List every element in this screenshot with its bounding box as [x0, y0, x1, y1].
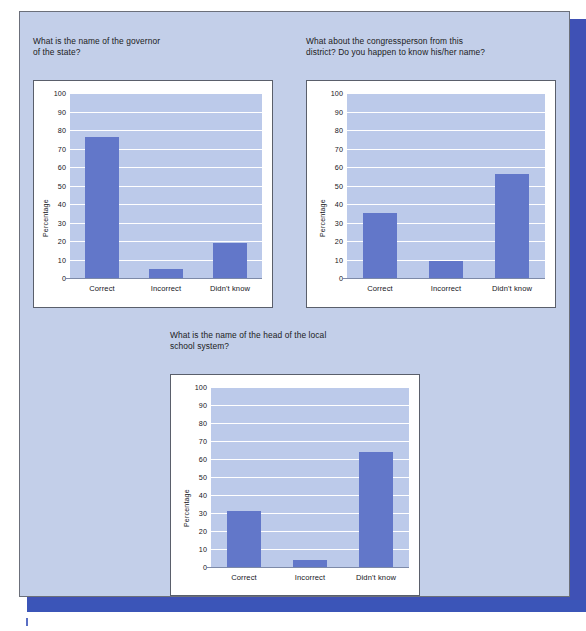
- x-axis-baseline: [207, 567, 409, 568]
- x-axis-baseline: [343, 278, 545, 279]
- chart-title-governor: What is the name of the governor of the …: [33, 36, 273, 58]
- bar-correct: [227, 511, 261, 567]
- y-tick-label: 70: [36, 145, 66, 154]
- y-tick-label: 40: [177, 491, 207, 500]
- bar-didn-t-know: [495, 174, 529, 278]
- gridline: [211, 387, 409, 388]
- y-tick-label: 90: [36, 108, 66, 117]
- y-tick-label: 60: [177, 455, 207, 464]
- y-tick-label: 50: [177, 473, 207, 482]
- y-tick-label: 0: [177, 563, 207, 572]
- x-tick-label: Didn't know: [336, 573, 416, 582]
- y-tick-label: 100: [36, 89, 66, 98]
- plot-area: [211, 387, 409, 567]
- y-tick-label: 80: [177, 419, 207, 428]
- gridline: [211, 441, 409, 442]
- bar-incorrect: [149, 269, 182, 278]
- x-axis-baseline: [66, 278, 262, 279]
- chart-title-congressperson: What about the congressperson from this …: [306, 36, 556, 58]
- gridline: [347, 93, 545, 94]
- gridline: [347, 130, 545, 131]
- y-tick-label: 30: [177, 509, 207, 518]
- y-tick-label: 60: [313, 163, 343, 172]
- bar-correct: [85, 137, 118, 278]
- y-tick-label: 10: [36, 256, 66, 265]
- y-tick-label: 0: [36, 274, 66, 283]
- bar-didn-t-know: [359, 452, 393, 567]
- x-tick-label: Didn't know: [472, 284, 552, 293]
- y-tick-label: 10: [313, 256, 343, 265]
- y-tick-label: 80: [36, 126, 66, 135]
- bar-incorrect: [293, 560, 327, 567]
- plot-area: [70, 93, 262, 278]
- bar-didn-t-know: [213, 243, 246, 278]
- gridline: [70, 130, 262, 131]
- chart-card-school-head: Percentage010203040506070809010031Correc…: [170, 374, 420, 596]
- y-tick-label: 0: [313, 274, 343, 283]
- gridline: [211, 423, 409, 424]
- y-tick-label: 90: [177, 401, 207, 410]
- plot-governor: Percentage010203040506070809010076Correc…: [34, 81, 272, 307]
- gridline: [211, 405, 409, 406]
- y-tick-label: 10: [177, 545, 207, 554]
- corner-tick-mark: [26, 618, 28, 626]
- y-tick-label: 70: [177, 437, 207, 446]
- y-tick-label: 30: [36, 219, 66, 228]
- chart-card-governor: Percentage010203040506070809010076Correc…: [33, 80, 273, 308]
- chart-card-congressperson: Percentage010203040506070809010035Correc…: [306, 80, 556, 308]
- plot-congressperson: Percentage010203040506070809010035Correc…: [307, 81, 555, 307]
- y-tick-label: 90: [313, 108, 343, 117]
- gridline: [347, 149, 545, 150]
- y-tick-label: 20: [36, 237, 66, 246]
- y-tick-label: 20: [177, 527, 207, 536]
- gridline: [347, 112, 545, 113]
- figure-page: What is the name of the governor of the …: [0, 0, 586, 631]
- y-tick-label: 20: [313, 237, 343, 246]
- gridline: [70, 93, 262, 94]
- y-tick-label: 60: [36, 163, 66, 172]
- x-tick-label: Didn't know: [190, 284, 270, 293]
- gridline: [347, 167, 545, 168]
- y-tick-label: 50: [313, 182, 343, 191]
- y-tick-label: 70: [313, 145, 343, 154]
- y-tick-label: 100: [313, 89, 343, 98]
- plot-school-head: Percentage010203040506070809010031Correc…: [171, 375, 419, 595]
- y-tick-label: 80: [313, 126, 343, 135]
- y-tick-label: 50: [36, 182, 66, 191]
- bar-correct: [363, 213, 397, 278]
- y-tick-label: 40: [313, 200, 343, 209]
- y-tick-label: 40: [36, 200, 66, 209]
- chart-title-school-head: What is the name of the head of the loca…: [170, 330, 420, 352]
- y-tick-label: 100: [177, 383, 207, 392]
- bottom-accent-bar: [27, 600, 586, 612]
- plot-area: [347, 93, 545, 278]
- bar-incorrect: [429, 261, 463, 278]
- gridline: [70, 112, 262, 113]
- y-tick-label: 30: [313, 219, 343, 228]
